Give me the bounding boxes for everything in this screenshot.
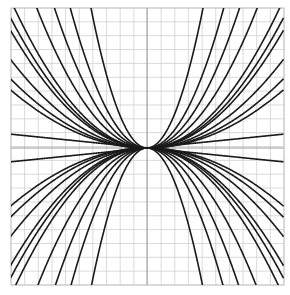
phase-portrait-chart — [0, 0, 290, 295]
